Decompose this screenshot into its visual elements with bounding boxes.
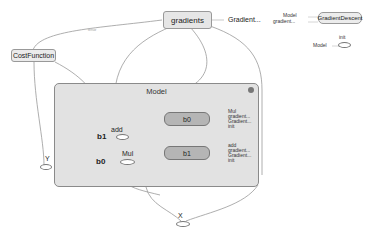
add-label: add [111, 126, 123, 133]
b1-output-3: init [228, 158, 234, 163]
y-label: Y [45, 155, 50, 162]
x-label: X [178, 212, 183, 219]
b0-variable-node[interactable]: b0 [164, 112, 210, 126]
init-input-model: Model [313, 43, 327, 48]
b1-input-label: b1 [97, 132, 106, 141]
cost-function-label: CostFunction [13, 52, 54, 59]
x-node[interactable] [176, 221, 190, 227]
init-node[interactable] [338, 42, 351, 48]
add-node[interactable] [116, 134, 129, 140]
b0-variable-label: b0 [183, 116, 191, 123]
gradient-descent-input-gradient: gradient... [273, 19, 295, 24]
b0-input-label: b0 [96, 157, 105, 166]
gradient-descent-node[interactable]: GradientDescent [318, 12, 362, 24]
gradients-label: gradients [171, 16, 204, 25]
gradients-output-label[interactable]: Gradient... [228, 16, 261, 23]
graph-canvas[interactable]: tensor gradients Gradient... Model gradi… [0, 0, 366, 239]
init-label: init [339, 35, 345, 40]
model-title: Model [55, 87, 258, 96]
mul-label: Mul [122, 150, 133, 157]
gradient-descent-label: GradientDescent [317, 15, 362, 21]
model-group[interactable]: Model [54, 83, 259, 187]
b1-variable-label: b1 [183, 150, 191, 157]
cost-function-node[interactable]: CostFunction [11, 49, 56, 62]
collapse-icon[interactable] [248, 87, 254, 93]
edge-label-cost-gradients: tensor [88, 28, 96, 32]
gradients-node[interactable]: gradients [163, 11, 212, 29]
mul-node[interactable] [120, 159, 135, 165]
b1-variable-node[interactable]: b1 [164, 146, 210, 160]
y-node[interactable] [40, 164, 52, 170]
b0-output-3: init [228, 124, 234, 129]
